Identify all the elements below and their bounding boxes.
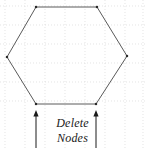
caption-line-delete: Delete	[0, 117, 145, 129]
hexagon-delete-nodes-figure: Delete Nodes	[0, 0, 145, 148]
left-delete-arrow-head	[33, 110, 38, 117]
right-delete-arrow-head	[93, 110, 98, 117]
caption-line-nodes: Nodes	[0, 132, 145, 144]
